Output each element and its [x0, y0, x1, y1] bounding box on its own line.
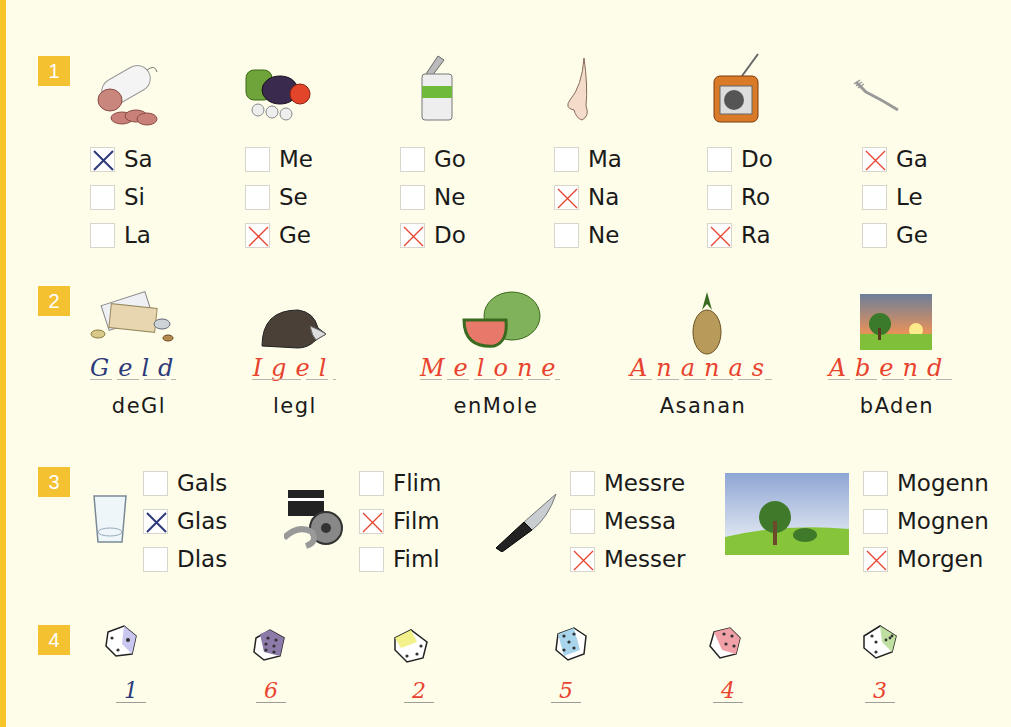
radio-icon — [712, 52, 762, 124]
option-row[interactable]: Ma — [554, 140, 622, 178]
scrambled-word: deGl — [96, 394, 182, 418]
option-label: Le — [896, 186, 923, 209]
option-label: Glas — [177, 510, 227, 533]
option-row[interactable]: Mogenn — [863, 464, 989, 502]
checkbox[interactable] — [143, 547, 168, 572]
checkbox[interactable] — [570, 471, 595, 496]
option-row[interactable]: Me — [245, 140, 313, 178]
option-label: Ge — [279, 224, 311, 247]
die-answer: 4 — [713, 678, 743, 703]
checkbox[interactable] — [707, 147, 732, 172]
answer-word: Geld — [90, 354, 176, 382]
checkbox-checked-red[interactable] — [245, 223, 270, 248]
checkbox[interactable] — [570, 509, 595, 534]
die-answer: 6 — [256, 678, 286, 703]
fork-icon — [852, 78, 902, 112]
checkbox[interactable] — [554, 223, 579, 248]
option-row[interactable]: Ge — [862, 216, 928, 254]
exercise-number-badge: 4 — [38, 625, 70, 655]
option-row[interactable]: Film — [359, 502, 441, 540]
option-label: Morgen — [897, 548, 983, 571]
option-row[interactable]: Se — [245, 178, 313, 216]
option-row[interactable]: Si — [90, 178, 153, 216]
option-row[interactable]: Go — [400, 140, 466, 178]
checkbox-checked-blue[interactable] — [90, 147, 115, 172]
option-row[interactable]: Do — [707, 140, 773, 178]
option-row[interactable]: Mognen — [863, 502, 989, 540]
checkbox-checked-red[interactable] — [707, 223, 732, 248]
option-row[interactable]: Do — [400, 216, 466, 254]
option-row[interactable]: Ne — [554, 216, 622, 254]
option-label: Na — [588, 186, 619, 209]
option-row[interactable]: Dlas — [143, 540, 227, 578]
checkbox-checked-blue[interactable] — [143, 509, 168, 534]
checkbox-checked-red[interactable] — [863, 547, 888, 572]
answer-word: Abend — [828, 354, 952, 382]
checkbox[interactable] — [554, 147, 579, 172]
option-row[interactable]: Glas — [143, 502, 227, 540]
checkbox[interactable] — [245, 147, 270, 172]
checkbox[interactable] — [245, 185, 270, 210]
checkbox-checked-red[interactable] — [400, 223, 425, 248]
checkbox[interactable] — [400, 185, 425, 210]
checkbox[interactable] — [862, 185, 887, 210]
option-label: Se — [279, 186, 308, 209]
option-row[interactable]: La — [90, 216, 153, 254]
hedgehog-icon — [258, 306, 328, 352]
option-group-glass: Gals Glas Dlas — [143, 464, 227, 578]
option-label: Sa — [124, 148, 153, 171]
option-row[interactable]: Sa — [90, 140, 153, 178]
checkbox[interactable] — [359, 547, 384, 572]
checkbox[interactable] — [90, 223, 115, 248]
knife-icon — [494, 492, 560, 552]
answer-word: Igel — [252, 354, 336, 382]
checkbox[interactable] — [707, 185, 732, 210]
exercise-number-badge: 1 — [38, 56, 70, 86]
option-row[interactable]: Ge — [245, 216, 313, 254]
checkbox[interactable] — [143, 471, 168, 496]
checkbox[interactable] — [359, 471, 384, 496]
option-row[interactable]: Ne — [400, 178, 466, 216]
option-row[interactable]: Ro — [707, 178, 773, 216]
option-row[interactable]: Messa — [570, 502, 686, 540]
option-group-tin-can: Go Ne Do — [400, 140, 466, 254]
option-row[interactable]: Ra — [707, 216, 773, 254]
option-group-radio: Do Ro Ra — [707, 140, 773, 254]
checkbox[interactable] — [863, 509, 888, 534]
scrambled-word: Asanan — [650, 394, 756, 418]
checkbox[interactable] — [863, 471, 888, 496]
option-group-vegetables: Me Se Ge — [245, 140, 313, 254]
option-row[interactable]: Fiml — [359, 540, 441, 578]
option-label: Do — [434, 224, 466, 247]
option-label: Film — [393, 510, 440, 533]
die-icon — [862, 624, 900, 660]
option-label: Ma — [588, 148, 622, 171]
option-label: Me — [279, 148, 313, 171]
checkbox-checked-red[interactable] — [554, 185, 579, 210]
option-row[interactable]: Gals — [143, 464, 227, 502]
option-row[interactable]: Na — [554, 178, 622, 216]
option-label: Messer — [604, 548, 686, 571]
checkbox-checked-red[interactable] — [570, 547, 595, 572]
die-icon — [554, 626, 588, 662]
option-group-salami: Sa Si La — [90, 140, 153, 254]
checkbox[interactable] — [862, 223, 887, 248]
option-group-knife: Messre Messa Messer — [570, 464, 686, 578]
checkbox-checked-red[interactable] — [862, 147, 887, 172]
option-label: Dlas — [177, 548, 227, 571]
scrambled-word: bAden — [852, 394, 942, 418]
option-row[interactable]: Messer — [570, 540, 686, 578]
option-row[interactable]: Ga — [862, 140, 928, 178]
money-icon — [90, 290, 176, 344]
option-row[interactable]: Le — [862, 178, 928, 216]
checkbox-checked-red[interactable] — [359, 509, 384, 534]
exercise-number-badge: 2 — [38, 286, 70, 316]
option-row[interactable]: Morgen — [863, 540, 989, 578]
option-row[interactable]: Flim — [359, 464, 441, 502]
checkbox[interactable] — [90, 185, 115, 210]
option-label: Ne — [434, 186, 465, 209]
option-label: Ge — [896, 224, 928, 247]
answer-word: Melone — [420, 354, 560, 382]
checkbox[interactable] — [400, 147, 425, 172]
option-row[interactable]: Messre — [570, 464, 686, 502]
